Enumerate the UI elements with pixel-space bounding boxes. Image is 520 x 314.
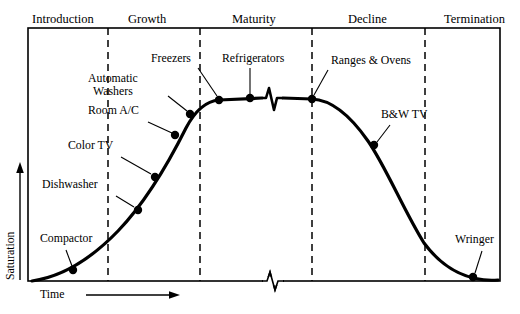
x-axis-label-time: Time xyxy=(40,288,64,301)
data-point-ranges-ovens[interactable] xyxy=(308,95,316,103)
product-label-room-ac: Room A/C xyxy=(88,104,139,117)
product-label-dishwasher: Dishwasher xyxy=(42,178,98,191)
stage-label-termination: Termination xyxy=(444,12,505,26)
x-axis-arrowhead-icon xyxy=(169,291,180,299)
data-point-dishwasher[interactable] xyxy=(134,206,142,214)
leader-line-freezers xyxy=(198,68,217,96)
data-point-wringer[interactable] xyxy=(469,273,477,281)
leader-line-ranges-ovens xyxy=(314,70,328,95)
product-label-ranges-ovens: Ranges & Ovens xyxy=(331,54,411,67)
x-axis-break-zigzag xyxy=(262,272,284,290)
product-label-freezers: Freezers xyxy=(151,52,191,65)
y-axis-arrowhead-icon xyxy=(16,162,24,173)
data-point-freezers[interactable] xyxy=(215,96,223,104)
data-point-automatic-washers[interactable] xyxy=(186,110,194,118)
leader-line-wringer xyxy=(475,251,482,273)
plot-frame xyxy=(28,28,500,281)
stage-label-decline: Decline xyxy=(348,12,387,26)
product-label-refrigerators: Refrigerators xyxy=(222,52,284,65)
leader-line-compactor xyxy=(66,250,72,266)
leader-line-room-ac xyxy=(148,122,172,133)
y-axis-label-saturation: Saturation xyxy=(4,232,17,281)
product-label-color-tv: Color TV xyxy=(68,139,113,152)
product-life-cycle-figure: Introduction Growth Maturity Decline Ter… xyxy=(0,0,520,314)
data-point-bw-tv[interactable] xyxy=(370,141,378,149)
stage-label-growth: Growth xyxy=(128,12,166,26)
data-point-compactor[interactable] xyxy=(69,266,77,274)
product-label-automatic-washers-line2: Washers xyxy=(88,85,138,98)
data-point-room-ac[interactable] xyxy=(171,131,179,139)
leader-line-automatic-washers xyxy=(168,96,187,111)
product-label-wringer: Wringer xyxy=(455,233,494,246)
product-label-bw-tv: B&W TV xyxy=(381,108,427,121)
data-point-refrigerators[interactable] xyxy=(246,94,254,102)
life-cycle-chart-svg xyxy=(0,0,520,314)
stage-label-introduction: Introduction xyxy=(32,12,94,26)
leader-line-color-tv xyxy=(121,157,151,174)
leader-line-bw-tv xyxy=(377,125,390,142)
stage-label-maturity: Maturity xyxy=(232,12,276,26)
data-point-color-tv[interactable] xyxy=(151,173,159,181)
leader-line-dishwasher xyxy=(116,196,134,207)
product-label-compactor: Compactor xyxy=(40,232,92,245)
saturation-curve-decline xyxy=(283,98,498,280)
product-label-automatic-washers: Automatic Washers xyxy=(88,72,138,98)
curve-break-zigzag xyxy=(262,88,283,110)
